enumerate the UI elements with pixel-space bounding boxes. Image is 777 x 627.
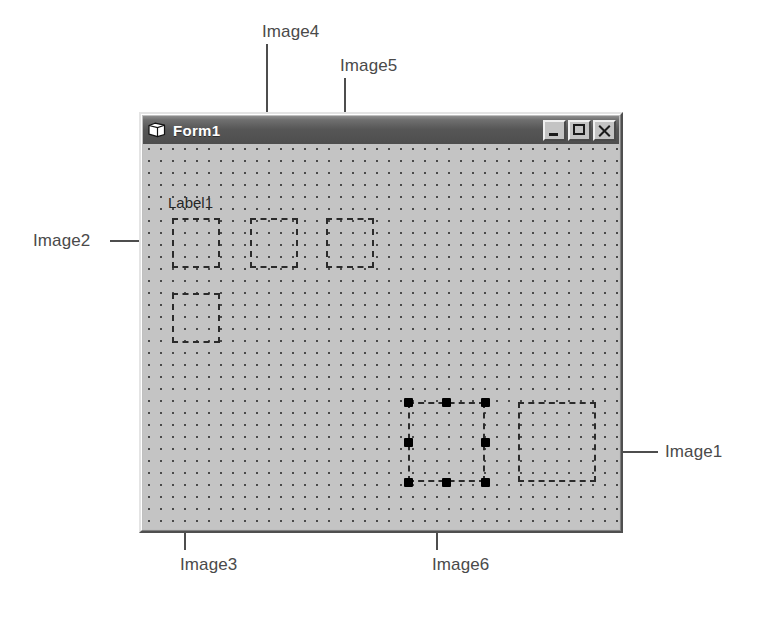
annotation-label-image4: Image4 xyxy=(262,22,319,42)
resize-handle-se[interactable] xyxy=(481,478,490,487)
resize-handle-n[interactable] xyxy=(442,398,451,407)
window-title: Form1 xyxy=(173,122,541,139)
annotation-label-image1: Image1 xyxy=(665,442,722,462)
image6-control[interactable] xyxy=(408,402,485,482)
form-document-icon xyxy=(148,122,166,138)
annotation-label-image5: Image5 xyxy=(340,56,397,76)
minimize-icon[interactable] xyxy=(543,120,566,141)
resize-handle-nw[interactable] xyxy=(404,398,413,407)
image3-control[interactable] xyxy=(172,293,220,343)
annotation-label-image6: Image6 xyxy=(432,555,489,575)
resize-handle-sw[interactable] xyxy=(404,478,413,487)
maximize-icon[interactable] xyxy=(568,120,591,141)
resize-handle-e[interactable] xyxy=(481,438,490,447)
resize-handle-w[interactable] xyxy=(404,438,413,447)
image4-control[interactable] xyxy=(250,218,298,268)
annotation-label-image2: Image2 xyxy=(33,231,90,251)
image5-control[interactable] xyxy=(326,218,374,268)
label1-control[interactable]: Label1 xyxy=(168,194,213,211)
annotation-label-image3: Image3 xyxy=(180,555,237,575)
form-design-surface[interactable]: Label1 xyxy=(143,144,619,529)
window-titlebar[interactable]: Form1 xyxy=(143,116,619,144)
image2-control[interactable] xyxy=(172,218,220,268)
form-designer-window[interactable]: Form1 Label1 xyxy=(139,112,623,533)
image1-control[interactable] xyxy=(518,402,596,482)
close-icon[interactable] xyxy=(593,120,616,141)
resize-handle-ne[interactable] xyxy=(481,398,490,407)
resize-handle-s[interactable] xyxy=(442,478,451,487)
